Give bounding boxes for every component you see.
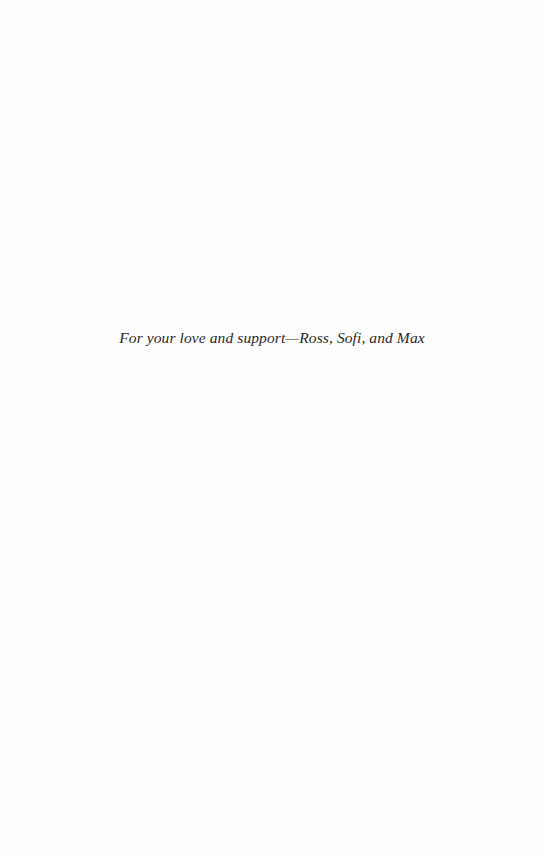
dedication-text: For your love and support—Ross, Sofi, an… [0,329,544,347]
dedication-page: For your love and support—Ross, Sofi, an… [0,0,544,856]
